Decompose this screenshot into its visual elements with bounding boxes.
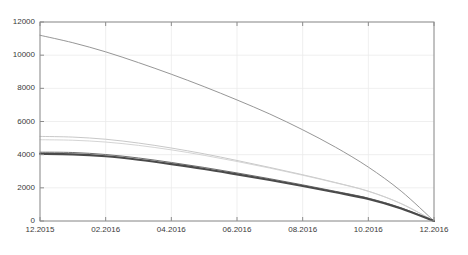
x-tick-label: 08.2016 [288,225,317,234]
chart-canvas: 020004000600080001000012000 12.201502.20… [0,0,468,255]
x-tick-label: 06.2016 [223,225,252,234]
x-tick-label: 04.2016 [157,225,186,234]
line-chart: 020004000600080001000012000 12.201502.20… [0,0,468,255]
x-tick-label: 10.2016 [354,225,383,234]
x-tick-label: 02.2016 [91,225,120,234]
y-tick-label: 2000 [17,183,35,192]
y-tick-label: 8000 [17,83,35,92]
y-tick-label: 6000 [17,117,35,126]
x-tick-label: 12.2015 [26,225,55,234]
y-tick-label: 10000 [13,50,36,59]
y-axis-ticks: 020004000600080001000012000 [13,17,44,225]
y-tick-label: 12000 [13,17,36,26]
y-tick-label: 4000 [17,150,35,159]
x-tick-label: 12.2016 [420,225,449,234]
